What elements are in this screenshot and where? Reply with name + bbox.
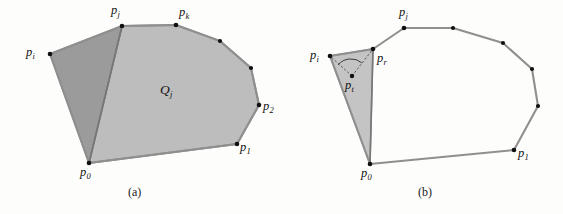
caption-panel-b: (b) (418, 185, 432, 200)
vertex-dot-b8 (536, 104, 540, 108)
vertex-dot-b7 (530, 67, 534, 71)
panel-b-graphic (0, 0, 563, 214)
vertex-dot-b6 (501, 41, 505, 45)
label-pj-b: pj (399, 6, 408, 19)
label-pt-b: pt (345, 79, 354, 92)
label-pi-b: pi (310, 49, 319, 62)
figure-container: pi pj pk p2 p1 p0 Qj (a) (0, 0, 563, 214)
vertex-dot-b-pj (402, 26, 407, 31)
label-p1-b: p1 (518, 147, 529, 160)
vertex-dot-b-p1 (512, 148, 517, 153)
region-triangle-b (330, 49, 373, 164)
vertex-dot-b-pi (328, 54, 333, 59)
label-p0-b: p0 (361, 167, 372, 180)
vertex-dot-b5 (451, 26, 455, 30)
vertex-dot-b-pr (371, 47, 376, 52)
label-pr-b: pr (377, 52, 387, 65)
vertex-dot-b-p0 (368, 162, 373, 167)
